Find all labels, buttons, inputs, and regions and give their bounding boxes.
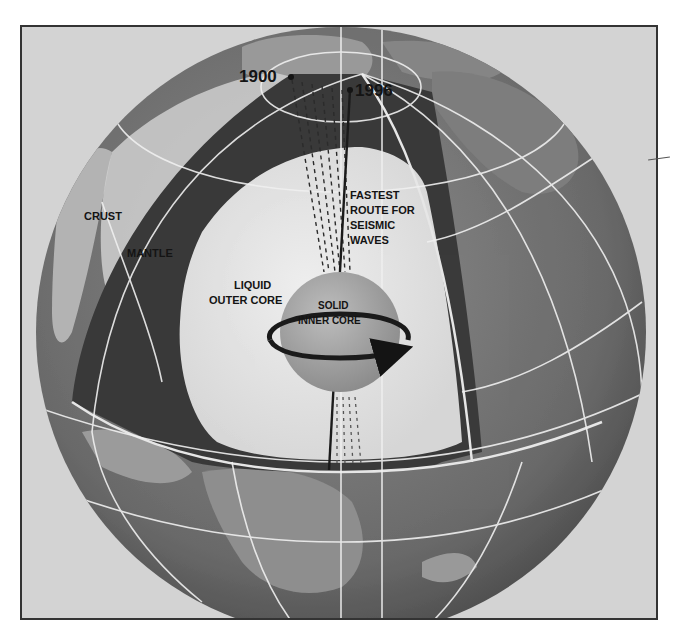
station-1996-dot <box>347 87 353 93</box>
label-fastest-3: SEISMIC <box>350 219 395 231</box>
label-inner-core-2: INNER CORE <box>298 315 361 326</box>
label-crust: CRUST <box>84 210 122 222</box>
diagram-frame: 1900 1996 CRUST MANTLE LIQUID OUTER CORE… <box>20 25 658 620</box>
label-outer-core-2: OUTER CORE <box>209 294 282 306</box>
label-mantle: MANTLE <box>127 247 173 259</box>
inner-core <box>280 272 400 392</box>
label-fastest-1: FASTEST <box>350 189 400 201</box>
label-outer-core-1: LIQUID <box>234 279 271 291</box>
label-1996: 1996 <box>355 81 393 100</box>
label-fastest-4: WAVES <box>350 234 389 246</box>
label-inner-core-1: SOLID <box>318 300 349 311</box>
label-fastest-2: ROUTE FOR <box>350 204 415 216</box>
earth-cutaway-svg: 1900 1996 CRUST MANTLE LIQUID OUTER CORE… <box>22 27 658 620</box>
station-1900-dot <box>288 74 294 80</box>
label-1900: 1900 <box>239 67 277 86</box>
